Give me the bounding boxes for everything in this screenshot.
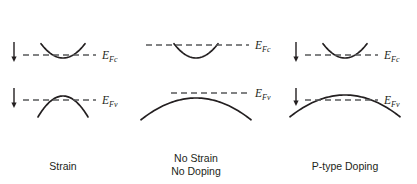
valence-shift-arrow-head bbox=[293, 101, 298, 107]
band-diagram-svg: EFcEFvStrainEFcEFvNo StrainNo DopingEFcE… bbox=[0, 0, 417, 184]
valence-shift-arrow-strain bbox=[11, 88, 16, 108]
valence-band-curve-strain bbox=[38, 96, 88, 117]
panel-caption-strain: Strain bbox=[49, 160, 77, 172]
conduction-shift-arrow-head bbox=[293, 57, 298, 63]
valence-shift-arrow-p-type-doping bbox=[293, 88, 298, 106]
fermi-label-e_fc-strain: EFc bbox=[101, 49, 118, 64]
valence-shift-arrow-head bbox=[11, 103, 16, 109]
fermi-label-e_fc-p-type-doping: EFc bbox=[383, 49, 400, 64]
conduction-shift-arrow-head bbox=[11, 57, 16, 63]
conduction-band-curve-p-type-doping bbox=[323, 44, 367, 58]
fermi-label-e_fv-no-strain-no-doping: EFv bbox=[254, 87, 271, 102]
valence-band-curve-no-strain-no-doping bbox=[141, 98, 251, 120]
conduction-band-curve-no-strain-no-doping bbox=[174, 44, 218, 58]
conduction-band-curve-strain bbox=[41, 44, 85, 58]
panel-p-type-doping: EFcEFvP-type Doping bbox=[290, 42, 400, 172]
fermi-label-e_fc-no-strain-no-doping: EFc bbox=[254, 39, 271, 54]
fermi-label-e_fv-strain: EFv bbox=[101, 94, 118, 109]
conduction-shift-arrow-strain bbox=[11, 42, 16, 62]
panel-strain: EFcEFvStrain bbox=[11, 42, 118, 172]
band-diagram-figure: EFcEFvStrainEFcEFvNo StrainNo DopingEFcE… bbox=[0, 0, 417, 184]
conduction-shift-arrow-p-type-doping bbox=[293, 42, 298, 62]
panel-caption-p-type-doping: P-type Doping bbox=[312, 160, 379, 172]
panels-group: EFcEFvStrainEFcEFvNo StrainNo DopingEFcE… bbox=[11, 39, 400, 177]
panel-no-strain-no-doping: EFcEFvNo StrainNo Doping bbox=[141, 39, 271, 177]
panel-caption-no-strain-no-doping: No StrainNo Doping bbox=[171, 152, 221, 177]
